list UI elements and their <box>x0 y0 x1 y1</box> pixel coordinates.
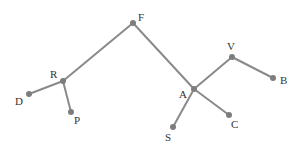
edge-a-c <box>194 89 229 115</box>
label-b: B <box>280 74 287 86</box>
node-v <box>229 54 235 60</box>
node-s <box>170 124 176 130</box>
label-s: S <box>165 131 171 143</box>
label-v: V <box>227 40 235 52</box>
edge-a-v <box>194 57 232 89</box>
tree-diagram: F R D P A V B C S <box>0 0 303 147</box>
label-f: F <box>138 11 144 23</box>
edges <box>29 23 273 127</box>
node-d <box>26 91 32 97</box>
label-a: A <box>179 88 187 100</box>
edge-v-b <box>232 57 273 78</box>
edge-r-d <box>29 81 63 94</box>
node-b <box>270 75 276 81</box>
label-c: C <box>231 118 238 130</box>
node-a <box>191 86 197 92</box>
labels: F R D P A V B C S <box>15 11 287 143</box>
edge-f-a <box>133 23 194 89</box>
edge-f-r <box>63 23 133 81</box>
label-d: D <box>15 95 23 107</box>
label-p: P <box>74 114 80 126</box>
node-r <box>60 78 66 84</box>
nodes <box>26 20 276 130</box>
edge-r-p <box>63 81 71 112</box>
label-r: R <box>50 68 58 80</box>
node-f <box>130 20 136 26</box>
